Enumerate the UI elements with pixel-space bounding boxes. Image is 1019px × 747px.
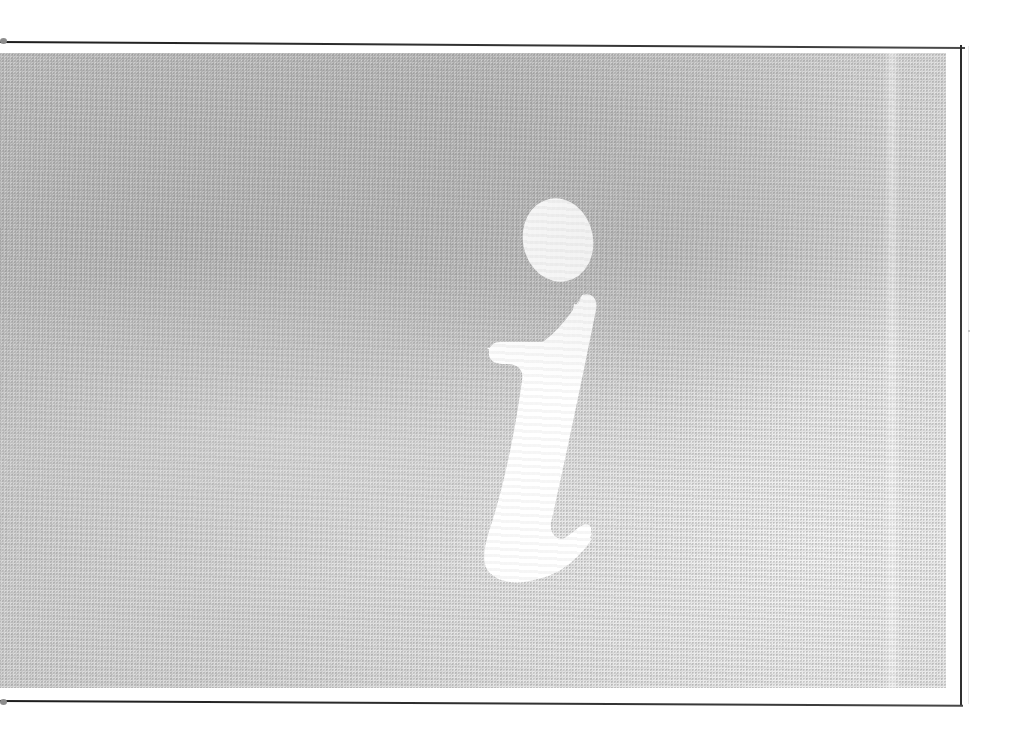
- bottom-rule-left-bleed: [0, 699, 7, 705]
- page-right-margin: [970, 0, 1019, 747]
- right-rule-faint: [968, 46, 969, 704]
- top-rule-left-bleed: [0, 38, 7, 44]
- panel-bottom-gap: [0, 688, 962, 701]
- scan-speck: [968, 330, 970, 332]
- page-bottom-margin: [0, 706, 1019, 747]
- information-symbol-glyph: [0, 52, 948, 689]
- halftone-gray-panel: [0, 52, 948, 689]
- scan-light-band: [884, 52, 900, 689]
- page-top-margin: [0, 0, 1019, 38]
- right-rule: [960, 45, 962, 706]
- scanned-page: Large white italic letter i on a gray ha…: [0, 0, 1019, 747]
